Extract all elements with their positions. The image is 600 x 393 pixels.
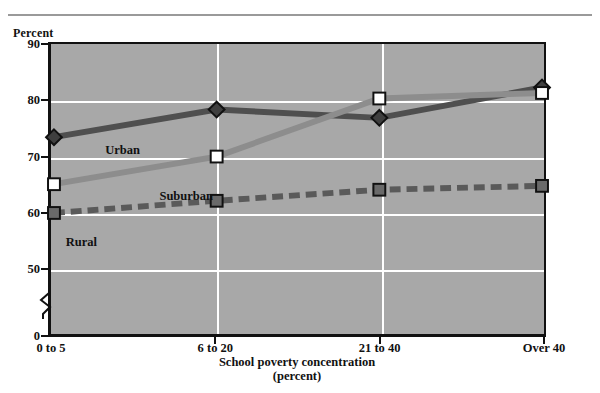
data-point-rural-0 bbox=[48, 207, 60, 219]
x-tick-mark-2 bbox=[379, 337, 381, 344]
data-point-rural-3 bbox=[536, 180, 548, 192]
y-tick-mark-50 bbox=[41, 268, 48, 270]
series-label-urban: Urban bbox=[105, 143, 140, 158]
data-point-suburban-1 bbox=[211, 151, 223, 163]
y-tick-label-50: 50 bbox=[10, 262, 40, 277]
x-tick-label-0: 0 to 5 bbox=[36, 341, 65, 356]
x-tick-mark-1 bbox=[214, 337, 216, 344]
series-line-suburban bbox=[54, 93, 542, 184]
chart-figure: Percent UrbanSuburbanRural 90807060500 0… bbox=[0, 0, 600, 393]
y-tick-label-70: 70 bbox=[10, 149, 40, 164]
y-tick-mark-90 bbox=[41, 43, 48, 45]
x-axis-title-sub: (percent) bbox=[48, 369, 546, 383]
x-axis-title-main: School poverty concentration bbox=[219, 355, 375, 369]
y-tick-mark-80 bbox=[41, 99, 48, 101]
series-label-rural: Rural bbox=[66, 235, 97, 250]
series-rural bbox=[48, 180, 548, 219]
y-tick-label-80: 80 bbox=[10, 93, 40, 108]
y-tick-mark-0 bbox=[41, 335, 48, 337]
x-tick-mark-3 bbox=[543, 337, 545, 344]
series-layer bbox=[51, 44, 544, 334]
data-point-urban-2 bbox=[371, 110, 387, 126]
data-point-rural-2 bbox=[373, 184, 385, 196]
y-axis-tick-labels: 90807060500 bbox=[8, 42, 40, 337]
data-point-suburban-0 bbox=[48, 178, 60, 190]
x-axis-title: School poverty concentration (percent) bbox=[48, 355, 546, 383]
y-tick-label-90: 90 bbox=[10, 37, 40, 52]
data-point-suburban-2 bbox=[373, 93, 385, 105]
y-tick-label-60: 60 bbox=[10, 205, 40, 220]
plot-inner: UrbanSuburbanRural bbox=[51, 44, 544, 334]
data-point-urban-1 bbox=[209, 102, 225, 118]
y-tick-mark-70 bbox=[41, 156, 48, 158]
series-label-suburban: Suburban bbox=[159, 189, 213, 204]
data-point-suburban-3 bbox=[536, 87, 548, 99]
y-axis-break-icon bbox=[38, 285, 54, 319]
top-divider-rule bbox=[8, 14, 592, 16]
series-line-rural bbox=[54, 186, 542, 213]
plot-area: UrbanSuburbanRural bbox=[48, 42, 546, 337]
series-urban bbox=[46, 80, 550, 145]
y-tick-mark-60 bbox=[41, 212, 48, 214]
